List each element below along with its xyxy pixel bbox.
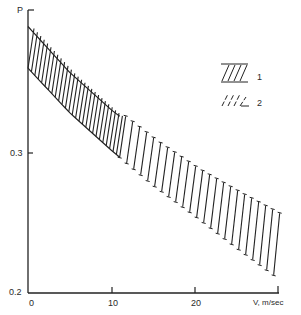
x-axis-label: V, m/sec <box>253 298 283 307</box>
y-axis-label: P <box>17 5 23 15</box>
legend <box>221 64 249 106</box>
x-tick-20: 20 <box>191 298 201 308</box>
x-tick-10: 10 <box>108 298 118 308</box>
legend-label-2: 2 <box>257 98 262 108</box>
x-axis <box>28 286 279 293</box>
legend-label-1: 1 <box>257 72 262 82</box>
chart-canvas <box>0 0 301 315</box>
y-tick-0.3: 0.3 <box>10 148 23 158</box>
y-axis <box>28 10 34 293</box>
legend-swatch-1 <box>221 64 248 82</box>
x-tick-0: 0 <box>29 298 34 308</box>
y-tick-0.2: 0.2 <box>9 287 22 297</box>
legend-swatch-2 <box>222 94 249 106</box>
